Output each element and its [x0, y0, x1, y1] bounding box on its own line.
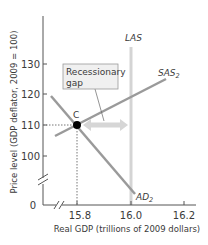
ad2-label-sub: 2 — [149, 196, 153, 204]
y-axis-title: Price level (GDP deflator, 2009 = 100) — [9, 31, 19, 194]
point-c-label: C — [73, 110, 79, 120]
recessionary-gap-label-line1: Recessionary — [66, 67, 126, 77]
y-tick-130: 130 — [21, 59, 40, 70]
las-label: LAS — [125, 33, 142, 43]
x-tick-15-8: 15.8 — [69, 210, 91, 221]
x-ticks — [77, 201, 184, 205]
sas2-label-main: SAS — [158, 68, 176, 78]
ad2-label-main: AD — [135, 192, 149, 202]
sas2-label-sub: 2 — [176, 72, 180, 80]
ad2-curve — [51, 96, 135, 194]
ad2-label: AD2 — [135, 192, 153, 204]
x-tick-16-0: 16.0 — [120, 210, 142, 221]
sas2-label: SAS2 — [158, 68, 180, 80]
gap-double-arrow-icon — [83, 119, 128, 131]
ad-as-diagram: 130 120 110 100 0 15.8 16.0 16.2 Real GD… — [0, 0, 208, 245]
y-tick-120: 120 — [21, 89, 40, 100]
y-tick-100: 100 — [21, 151, 40, 162]
callout-leader-line — [95, 89, 104, 121]
equilibrium-point-c — [73, 121, 81, 129]
x-tick-16-2: 16.2 — [173, 210, 195, 221]
recessionary-gap-label-line2: gap — [66, 78, 83, 88]
y-tick-110: 110 — [21, 120, 40, 131]
origin-label: 0 — [30, 200, 36, 211]
x-axis-title: Real GDP (trillions of 2009 dollars) — [54, 224, 200, 234]
y-ticks — [43, 64, 47, 156]
